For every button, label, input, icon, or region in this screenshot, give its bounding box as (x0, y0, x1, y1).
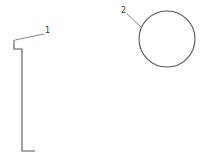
part-label-1: 1 (45, 26, 50, 35)
technical-diagram: 1 2 (0, 0, 206, 156)
leader-line-1 (15, 34, 44, 40)
part-2-group: 2 (121, 6, 195, 67)
leader-line-2 (127, 14, 141, 27)
bracket-profile-shape (14, 44, 35, 151)
part-1-group: 1 (14, 26, 50, 151)
part-label-2: 2 (121, 6, 126, 15)
circle-profile-shape (139, 11, 195, 67)
